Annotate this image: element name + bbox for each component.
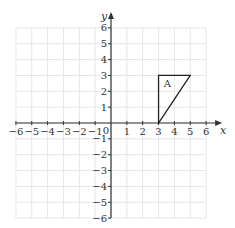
y-tick-label: −2 (92, 149, 107, 160)
y-tick-label: −3 (92, 165, 107, 176)
x-tick-label: −2 (72, 126, 87, 137)
y-tick-label: 3 (101, 70, 107, 81)
y-tick-label: 6 (101, 22, 107, 33)
x-tick-label: 1 (124, 126, 130, 137)
x-tick-label: −4 (40, 126, 55, 137)
y-tick-label: 2 (101, 86, 107, 97)
y-axis-arrow-icon (108, 12, 114, 19)
shape-label: A (163, 78, 172, 89)
x-tick-label: −5 (24, 126, 39, 137)
x-tick-label: 4 (171, 126, 177, 137)
y-tick-label: −6 (92, 213, 107, 224)
y-tick-label: 1 (101, 102, 107, 113)
x-tick-label: 2 (140, 126, 146, 137)
x-tick-label: 6 (203, 126, 209, 137)
x-axis-label: x (220, 124, 227, 137)
origin-label: 0 (103, 125, 109, 136)
x-tick-label: −3 (56, 126, 71, 137)
y-tick-label: 4 (101, 54, 107, 65)
coordinate-grid: xy −6−5−4−3−2−1123456654321−1−2−3−4−5−60… (0, 0, 235, 228)
x-tick-label: 3 (155, 126, 161, 137)
y-tick-label: −4 (92, 181, 107, 192)
x-tick-label: 5 (187, 126, 193, 137)
y-tick-label: −5 (92, 197, 107, 208)
x-tick-label: −6 (9, 126, 24, 137)
y-tick-label: 5 (101, 38, 107, 49)
y-axis-label: y (100, 10, 108, 23)
